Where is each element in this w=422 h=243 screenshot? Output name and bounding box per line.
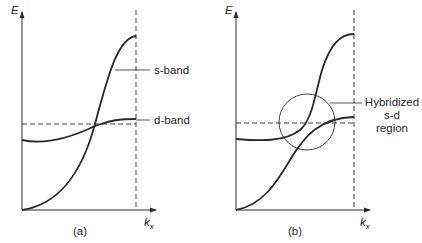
panel-b	[236, 10, 370, 210]
panel-b-annotation-line2: s-d	[362, 109, 422, 122]
panel-a-d-band-curve	[22, 119, 136, 142]
panel-b-annotation-line3: region	[362, 122, 422, 135]
panel-a-x-axis-sub: x	[150, 222, 154, 231]
band-structure-diagram	[0, 0, 422, 243]
panel-a-d-band-label: d-band	[154, 114, 190, 127]
panel-b-upper-band-curve	[236, 34, 354, 140]
panel-b-annotation: Hybridized s-d region	[362, 96, 422, 135]
panel-a-s-band-label: s-band	[154, 64, 189, 77]
panel-a-y-axis-label: E	[11, 4, 19, 17]
panel-b-lower-band-curve	[236, 117, 354, 210]
panel-a-x-axis-label: kx	[144, 216, 154, 233]
panel-b-annotation-line1: Hybridized	[362, 96, 422, 109]
panel-b-y-axis-label: E	[225, 4, 233, 17]
panel-b-caption: (b)	[288, 225, 302, 238]
panel-a-s-band-curve	[22, 36, 136, 210]
panel-b-x-axis-label: kx	[360, 216, 370, 233]
panel-a	[22, 10, 156, 210]
panel-a-caption: (a)	[73, 225, 87, 238]
panel-b-x-axis-sub: x	[366, 222, 370, 231]
